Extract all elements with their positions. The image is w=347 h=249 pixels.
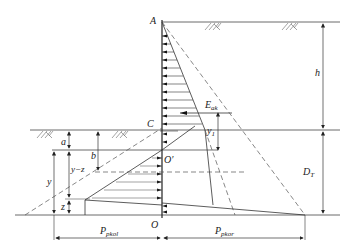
passive-pressure-left-lines	[92, 158, 162, 198]
dashed-passive-left	[25, 128, 162, 215]
y-minus-z-label: y−z	[70, 164, 85, 174]
dashed-active-line	[162, 22, 305, 215]
b-label: b	[91, 150, 96, 161]
y-label: y	[46, 176, 52, 187]
ground-hatch-icon	[37, 23, 298, 138]
dashed-lines	[25, 22, 305, 215]
h-label: h	[315, 67, 320, 78]
point-c-label: C	[147, 118, 154, 129]
ground-lines	[15, 22, 340, 215]
y1-label: y1	[206, 125, 215, 138]
point-a-label: A	[149, 15, 157, 26]
eak-arrow-icon	[180, 111, 187, 115]
passive-right-line	[162, 203, 305, 215]
point-o-prime-label: O′	[164, 154, 174, 165]
ppkor-label: Ppkor	[214, 225, 234, 238]
ppkol-label: Ppkol	[99, 225, 118, 238]
point-o-label: O	[151, 219, 158, 230]
z-label: z	[60, 201, 65, 212]
eak-label: Eak	[204, 99, 219, 112]
passive-pressure-left	[85, 150, 162, 215]
a-label: a	[61, 136, 66, 147]
dt-label: DT	[302, 166, 315, 179]
retaining-wall-pressure-diagram: A C O′ O h DT y1 a b y y−z z Eak Ppkol P…	[0, 0, 347, 249]
active-pressure-diagram	[162, 22, 213, 205]
